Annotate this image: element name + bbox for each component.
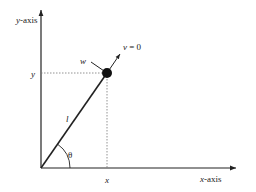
w-label: w xyxy=(80,56,86,66)
x-axis-label: x-axis xyxy=(199,174,222,184)
y-axis-label: y-axis xyxy=(15,15,38,25)
mass-ball xyxy=(102,68,112,78)
rod-line xyxy=(41,73,107,168)
v-equals-zero-label: v = 0 xyxy=(123,42,142,52)
y-coordinate-label: y xyxy=(30,69,35,79)
angle-theta-label: θ xyxy=(68,150,72,160)
x-coordinate-label: x xyxy=(104,175,109,185)
pendulum-coordinate-diagram: y-axis x-axis y x l θ w v = 0 xyxy=(0,0,256,192)
rod-length-label: l xyxy=(66,114,69,124)
